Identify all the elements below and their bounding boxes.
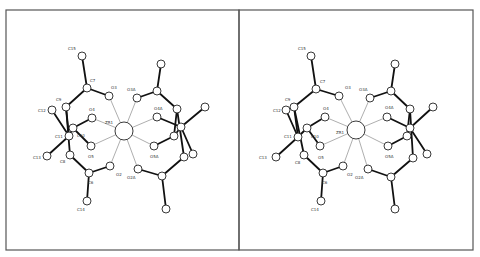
atom-c9: [290, 103, 298, 111]
atom-label-o2a: O2A: [355, 175, 364, 180]
atom-c13: [43, 152, 51, 160]
atom-o4a: [153, 113, 161, 121]
atom-c11: [65, 132, 73, 140]
bond-c11a-c12a: [181, 107, 205, 127]
atom-label-o3a: O3A: [127, 87, 136, 92]
atoms-layer: [43, 52, 437, 213]
atom-o4: [321, 113, 329, 121]
bond-c11-c13: [276, 137, 298, 157]
atom-label-o3a: O3A: [359, 87, 368, 92]
bonds-layer: [47, 56, 433, 209]
atom-o2a: [364, 165, 372, 173]
atom-c15: [307, 52, 315, 60]
atom-label-o5a: O5A: [150, 154, 159, 159]
atom-c7a: [387, 87, 395, 95]
atom-label-o4: O4: [89, 107, 95, 112]
atom-label-o4a: O4A: [385, 105, 394, 110]
atom-label-c9: C9: [285, 97, 291, 102]
atom-c15a: [391, 60, 399, 68]
atom-zr1: [347, 121, 365, 139]
bond-c6a-c14a: [391, 177, 395, 209]
bond-c15-c7: [311, 56, 316, 89]
atom-c6: [85, 169, 93, 177]
atom-label-o5: O5: [88, 154, 94, 159]
atom-o3a: [133, 94, 141, 102]
atom-label-c8: C8: [60, 159, 66, 164]
atom-label-c11: C11: [284, 134, 292, 139]
atom-c11a: [177, 123, 185, 131]
atom-c10a: [170, 132, 178, 140]
atom-label-o2: O2: [347, 172, 353, 177]
atom-label-c15: C15: [298, 46, 306, 51]
atom-label-o2a: O2A: [127, 175, 136, 180]
atom-c12: [48, 106, 56, 114]
atom-c14: [83, 197, 91, 205]
atom-c7: [83, 84, 91, 92]
atom-c6: [319, 169, 327, 177]
atom-label-c9: C9: [56, 97, 62, 102]
atom-c10a: [403, 132, 411, 140]
atom-zr1: [115, 122, 133, 140]
atom-o3: [335, 92, 343, 100]
atom-label-c13: C13: [259, 155, 267, 160]
atom-o4: [88, 114, 96, 122]
atom-c9a: [406, 105, 414, 113]
atom-c15a: [157, 60, 165, 68]
atom-o2: [106, 162, 114, 170]
atom-o3: [105, 92, 113, 100]
atom-c11a: [406, 124, 414, 132]
atom-c14a: [391, 205, 399, 213]
atom-c8: [66, 151, 74, 159]
atom-c8a: [409, 154, 417, 162]
atom-c7: [312, 85, 320, 93]
stereo-molecular-figure: ZR1C15C7O3C9C12O4C10C11O5C13C8C6O2C14O3A…: [0, 0, 480, 257]
atom-label-c6: C6: [88, 180, 94, 185]
atom-c11: [294, 133, 302, 141]
atom-label-o5a: O5A: [385, 154, 394, 159]
atom-label-c6: C6: [322, 180, 328, 185]
atom-c13: [272, 153, 280, 161]
atom-o2: [339, 162, 347, 170]
atom-c9: [62, 103, 70, 111]
atom-label-o5: O5: [318, 155, 324, 160]
atom-c14a: [162, 205, 170, 213]
atom-label-c7: C7: [90, 78, 96, 83]
atom-label-c11: C11: [55, 134, 63, 139]
atom-o3a: [366, 94, 374, 102]
atom-label-zr1: ZR1: [336, 130, 345, 135]
atom-c10: [303, 124, 311, 132]
atom-label-c14: C14: [311, 207, 319, 212]
atom-c7a: [153, 87, 161, 95]
atom-c12a: [201, 103, 209, 111]
atom-label-c8: C8: [295, 160, 301, 165]
atom-c8: [300, 151, 308, 159]
atom-c13a: [423, 150, 431, 158]
atom-c12a: [429, 103, 437, 111]
atom-c12: [282, 106, 290, 114]
atom-label-c12: C12: [273, 108, 281, 113]
atom-o5a: [150, 142, 158, 150]
atom-label-c14: C14: [77, 207, 85, 212]
atom-c13a: [189, 150, 197, 158]
atom-o5a: [384, 142, 392, 150]
atom-o5: [87, 142, 95, 150]
atom-c10: [69, 124, 77, 132]
atom-c6a: [387, 173, 395, 181]
atom-label-c7: C7: [320, 79, 326, 84]
atom-c8a: [180, 153, 188, 161]
atom-o2a: [134, 165, 142, 173]
atom-o5: [316, 142, 324, 150]
atom-c14: [317, 197, 325, 205]
atom-label-o2: O2: [116, 172, 122, 177]
atom-c6a: [158, 172, 166, 180]
atom-o4a: [383, 113, 391, 121]
atom-label-o3: O3: [345, 85, 351, 90]
atom-label-c10: C10: [77, 133, 85, 138]
atom-label-c10: C10: [311, 134, 319, 139]
atom-label-c15: C15: [68, 46, 76, 51]
atom-label-o4a: O4A: [154, 106, 163, 111]
bond-c11-c13: [47, 136, 69, 156]
bond-c15-c7: [82, 56, 87, 88]
atom-c15: [78, 52, 86, 60]
atom-label-c12: C12: [38, 108, 46, 113]
